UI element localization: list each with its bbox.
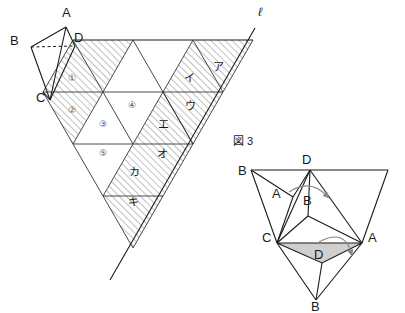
label-point-C: C bbox=[36, 90, 45, 105]
label-cell-3: ③ bbox=[99, 119, 107, 129]
label-fig3-B-left: B bbox=[238, 163, 247, 178]
label-fig3-A-inner: A bbox=[272, 186, 281, 201]
label-fig3-B-bottom: B bbox=[311, 299, 320, 313]
hatch-cell-2 bbox=[43, 92, 103, 144]
label-cell-2: ② bbox=[68, 105, 76, 115]
label-fig3-C: C bbox=[262, 230, 271, 245]
label-figure3-caption: 図 3 bbox=[233, 135, 253, 147]
label-kana-a: ア bbox=[213, 61, 224, 73]
label-fig3-D-top: D bbox=[302, 152, 311, 167]
edge-B-D-hidden bbox=[31, 46, 75, 47]
right-figure-labels: 図 3 B D A B C A D B bbox=[233, 135, 377, 313]
label-kana-o: オ bbox=[157, 148, 168, 160]
fig3-Binner-to-A bbox=[308, 216, 362, 243]
label-kana-ki: キ bbox=[128, 196, 139, 208]
fig3-D-to-A bbox=[310, 170, 362, 243]
figure-page: A B C D ℓ ① ② ③ ④ ⑤ ア イ ウ エ オ カ キ bbox=[0, 0, 405, 313]
label-fig3-A-right: A bbox=[368, 230, 377, 245]
left-figure-labels: A B C D ℓ ① ② ③ ④ ⑤ ア イ ウ エ オ カ キ bbox=[10, 5, 263, 208]
label-line-ell: ℓ bbox=[258, 5, 263, 19]
label-kana-e: エ bbox=[158, 118, 169, 130]
label-kana-i: イ bbox=[184, 72, 195, 84]
geometry-illustration: A B C D ℓ ① ② ③ ④ ⑤ ア イ ウ エ オ カ キ bbox=[0, 0, 405, 313]
label-cell-4: ④ bbox=[128, 100, 136, 110]
label-kana-ka: カ bbox=[129, 166, 140, 178]
label-cell-5: ⑤ bbox=[99, 148, 107, 158]
label-point-A: A bbox=[62, 5, 71, 20]
edge-A-B bbox=[31, 27, 66, 47]
label-kana-u: ウ bbox=[185, 100, 196, 112]
label-point-D: D bbox=[74, 30, 83, 45]
label-fig3-D-inner: D bbox=[314, 247, 323, 262]
label-point-B: B bbox=[10, 33, 19, 48]
label-cell-1: ① bbox=[68, 73, 76, 83]
label-fig3-B-inner: B bbox=[303, 193, 312, 208]
